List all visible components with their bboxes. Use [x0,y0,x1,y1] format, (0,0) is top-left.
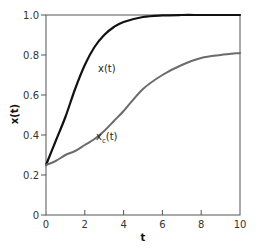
x-tick-label: 2 [82,219,88,230]
series-label-xc-tail: (t) [106,131,118,142]
series-label-xc: xc(t) [96,131,118,145]
y-axis-ticks: 00.20.40.60.81.0 [23,10,46,221]
x-tick-label: 0 [43,219,49,230]
chart: 00.20.40.60.81.0 0246810 t x(t) x(t) xc(… [0,0,257,252]
x-tick-label: 4 [120,219,126,230]
x-tick-label: 6 [159,219,165,230]
y-tick-label: 1.0 [23,10,39,21]
y-tick-label: 0.2 [23,170,39,181]
series-label-x: x(t) [98,63,116,74]
x-axis-label: t [141,232,146,243]
y-tick-label: 0.8 [23,50,39,61]
y-tick-label: 0 [33,210,39,221]
series-line-1 [46,53,240,165]
plot-border [46,15,240,215]
y-tick-label: 0.4 [23,130,39,141]
plot-curves [46,15,240,165]
x-tick-label: 8 [198,219,204,230]
x-axis-ticks: 0246810 [43,210,247,230]
y-tick-label: 0.6 [23,90,39,101]
y-axis-label: x(t) [9,104,20,124]
x-tick-label: 10 [234,219,247,230]
plot-frame [46,15,240,215]
